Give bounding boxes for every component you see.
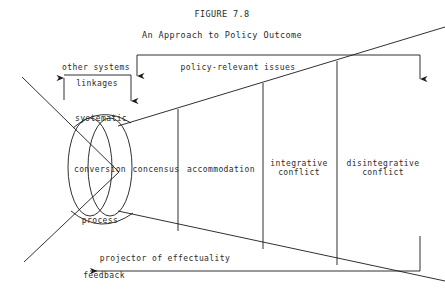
outcome-band-label-3-line2: conflict	[278, 168, 320, 177]
environment-upper-diagonal	[22, 77, 119, 172]
label-policy-relevant-issues: policy-relevant issues	[181, 63, 296, 72]
outcome-band-label-4-line2: conflict	[362, 168, 404, 177]
outcome-band-label-2: accommodation	[187, 165, 255, 174]
figure-title: An Approach to Policy Outcome	[142, 30, 302, 40]
outcome-band-label-4-line1: disintegrative	[346, 159, 419, 168]
label-projector-of-effectuality: projector of effectuality	[100, 254, 230, 263]
outcome-band-label-3: integrativeconflict	[270, 159, 327, 178]
figure-number: FIGURE 7.8	[194, 9, 249, 19]
label-feedback: feedback	[83, 271, 125, 280]
label-other-systems: other systems	[62, 63, 130, 72]
figure-canvas: FIGURE 7.8 An Approach to Policy Outcome…	[0, 0, 445, 306]
label-conversion: conversion	[74, 165, 126, 174]
label-process: process	[82, 216, 119, 225]
cone-lower-edge	[118, 211, 445, 281]
label-linkages: linkages	[76, 79, 118, 88]
outcome-band-label-4: disintegrativeconflict	[346, 159, 419, 178]
cone-upper-edge	[118, 27, 445, 126]
outcome-band-label-3-line1: integrative	[270, 159, 327, 168]
outcome-band-label-1: concensus	[133, 165, 180, 174]
label-systematic: systematic	[75, 114, 127, 123]
